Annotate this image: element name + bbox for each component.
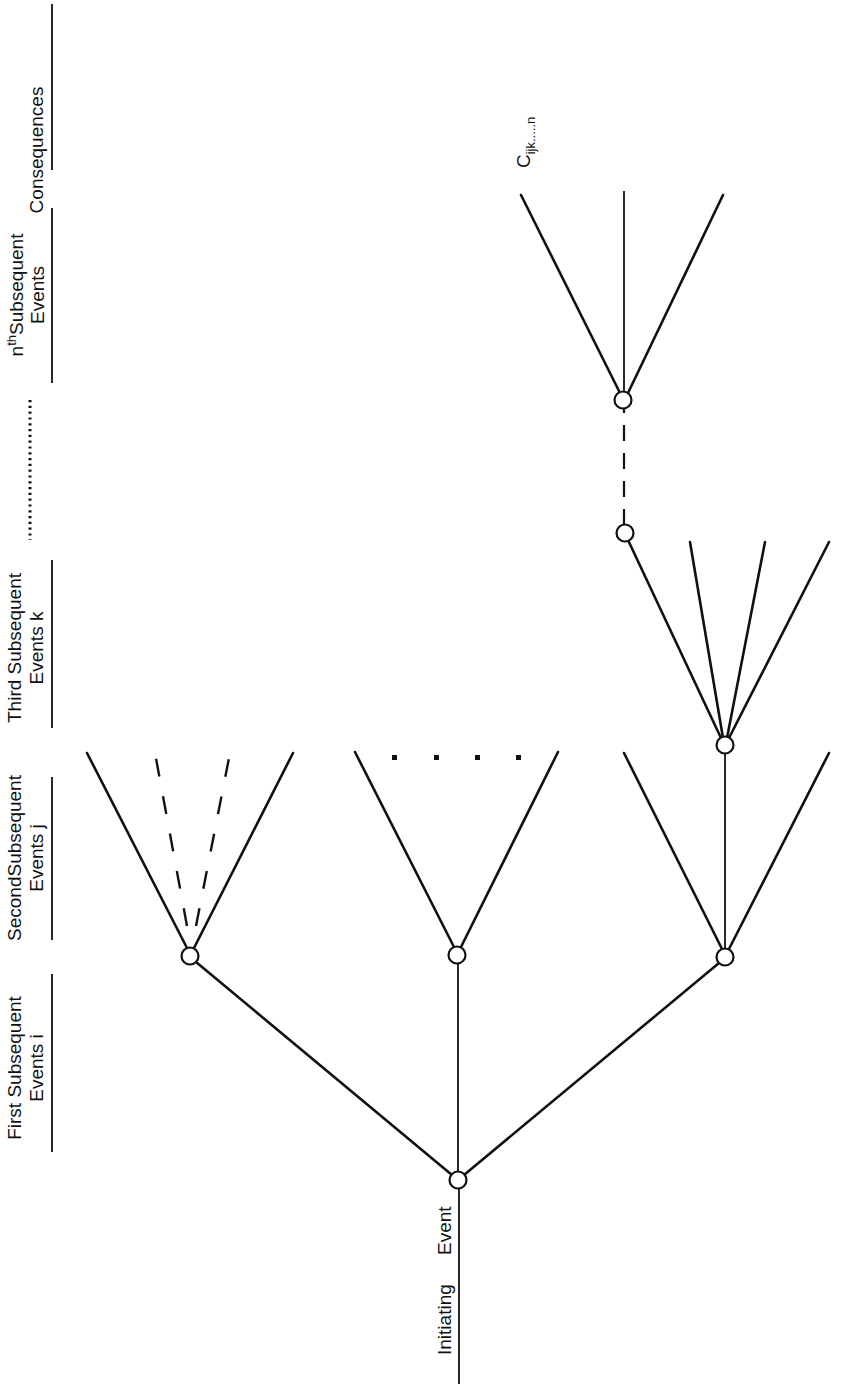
right-fan-outer-right (729, 753, 829, 949)
first-center-node (449, 947, 466, 964)
left-fan-outer-right (194, 753, 293, 948)
second-subsequent-label-line2: Events j (26, 824, 47, 892)
third-level-fan (628, 540, 829, 738)
nth-node (615, 392, 632, 409)
stage-label-third: Third Subsequent Events k (4, 560, 52, 728)
nth-fan-right (628, 195, 723, 393)
first-left-node (182, 948, 199, 965)
left-fan-dashed-right (196, 753, 230, 926)
third-subsequent-label-line1: Third Subsequent (4, 572, 25, 723)
initiating-node (450, 1172, 467, 1189)
center-fan-outer-left (355, 752, 454, 947)
center-fan-dot-1 (392, 755, 397, 760)
first-level-branches (196, 962, 719, 1175)
consequence-label: Cijk.....n (513, 117, 538, 168)
stage-label-consequences: Consequences (26, 4, 52, 213)
nth-subsequent-label-line2: Events (27, 266, 48, 324)
center-fan-dot-2 (434, 755, 439, 760)
event-tree-diagram: Consequences nthSubsequent Events Third … (0, 0, 856, 1398)
first-subsequent-label-line1: First Subsequent (4, 995, 25, 1139)
right-fan-outer-left (624, 753, 722, 949)
stage-label-first: First Subsequent Events i (4, 974, 52, 1152)
second-subsequent-label-line1: SecondSubsequent (4, 774, 25, 941)
initiating-event-label-line1: Initiating (434, 1284, 455, 1355)
second-right-center-node (717, 737, 734, 754)
initiating-event-label-line2: Event (434, 1206, 455, 1255)
stage-label-nth: nthSubsequent Events (4, 208, 52, 383)
second-level-left-fan (87, 753, 293, 948)
third-fan-branch-3 (727, 542, 765, 738)
initiating-event: Initiating Event (434, 1188, 459, 1384)
third-chain-node (617, 525, 634, 542)
first-subsequent-label-line2: Events i (26, 1034, 47, 1102)
second-level-right-fan (624, 753, 829, 949)
second-level-center-fan (355, 752, 558, 947)
nth-subsequent-label-line1: nthSubsequent (4, 233, 27, 357)
branch-to-first-right (464, 963, 719, 1175)
stage-label-second: SecondSubsequent Events j (4, 774, 52, 941)
first-right-node (717, 949, 734, 966)
branch-to-first-left (196, 962, 452, 1175)
third-subsequent-label-line2: Events k (26, 611, 47, 684)
nth-level-fan (521, 191, 723, 393)
third-fan-branch-4 (729, 542, 829, 738)
center-fan-dot-3 (475, 755, 480, 760)
left-fan-dashed-left (155, 753, 187, 926)
center-fan-dot-4 (516, 755, 521, 760)
nth-fan-left (521, 195, 620, 393)
stage-labels: Consequences nthSubsequent Events Third … (4, 4, 52, 1152)
center-fan-outer-right (461, 752, 558, 947)
consequences-label: Consequences (26, 87, 47, 214)
